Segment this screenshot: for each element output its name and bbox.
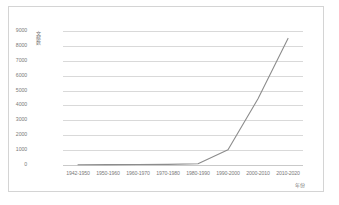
x-axis-tick-label: 1960-1970 xyxy=(123,171,153,176)
y-axis-title: 文献数 xyxy=(35,31,40,44)
series-line-chart xyxy=(63,31,303,165)
x-axis-tick-label: 1980-1990 xyxy=(183,171,213,176)
y-axis-tick-label: 3000 xyxy=(1,117,27,122)
y-axis-tick-label: 5000 xyxy=(1,88,27,93)
y-axis-tick-label: 1000 xyxy=(1,147,27,152)
y-axis-tick-label: 8000 xyxy=(1,43,27,48)
y-axis-tick-label: 0 xyxy=(1,162,27,167)
series-polyline xyxy=(78,38,288,164)
x-axis-tick-label: 1990-2000 xyxy=(213,171,243,176)
y-axis-tick-label: 9000 xyxy=(1,28,27,33)
chart-frame: 文献数 900080007000600050004000300020001000… xyxy=(8,6,324,192)
x-axis-tick-label: 2000-2010 xyxy=(243,171,273,176)
x-axis-tick-label: 1950-1960 xyxy=(93,171,123,176)
x-axis-tick-labels: 1942-19501950-19601960-19701970-19801980… xyxy=(63,171,303,176)
y-axis-tick-label: 4000 xyxy=(1,102,27,107)
x-axis-title: 年份 xyxy=(295,183,304,188)
y-axis-tick-label: 2000 xyxy=(1,132,27,137)
plot-area xyxy=(63,31,303,165)
y-axis-tick-label: 7000 xyxy=(1,58,27,63)
x-axis-tick-label: 1970-1980 xyxy=(153,171,183,176)
y-axis-tick-label: 6000 xyxy=(1,73,27,78)
x-axis-tick-label: 1942-1950 xyxy=(63,171,93,176)
x-axis-tick-label: 2010-2020 xyxy=(273,171,303,176)
